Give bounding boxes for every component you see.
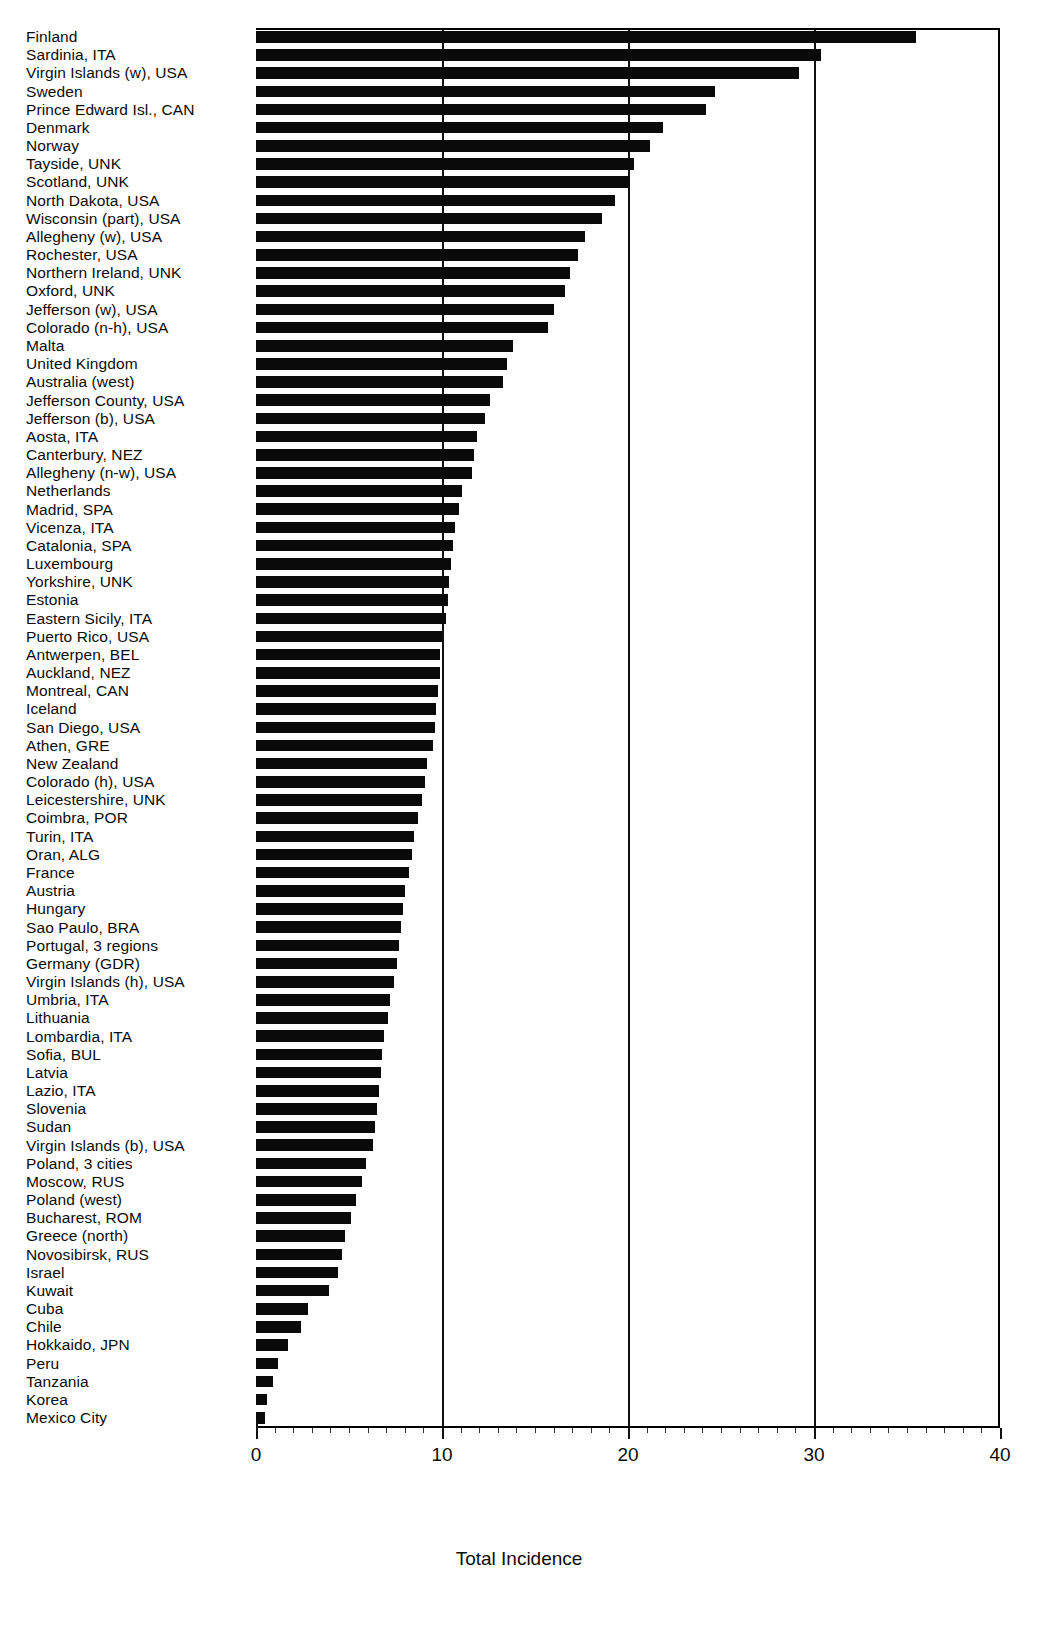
bar-row: North Dakota, USA (0, 192, 1038, 210)
bar-track (256, 1046, 1000, 1064)
bar-label: Madrid, SPA (26, 501, 113, 517)
bar-track (256, 719, 1000, 737)
bar-track (256, 1027, 1000, 1045)
bar-label: Sweden (26, 83, 83, 99)
bar-row: Sao Paulo, BRA (0, 918, 1038, 936)
bar-row: Sudan (0, 1118, 1038, 1136)
bar (256, 49, 821, 61)
bar (256, 1339, 288, 1351)
bar (256, 413, 485, 425)
bar-label: Finland (26, 29, 78, 45)
bar-label: Australia (west) (26, 374, 134, 390)
bar-row: Sweden (0, 83, 1038, 101)
bar-row: Virgin Islands (b), USA (0, 1136, 1038, 1154)
bar (256, 67, 799, 79)
bar-row: Iceland (0, 700, 1038, 718)
bar-track (256, 1064, 1000, 1082)
bar (256, 613, 446, 625)
bar-row: Hokkaido, JPN (0, 1336, 1038, 1354)
bar-row: Oran, ALG (0, 846, 1038, 864)
bar (256, 976, 394, 988)
minor-tick (479, 1428, 480, 1433)
bar-label: Jefferson (w), USA (26, 301, 158, 317)
bar-label: Estonia (26, 592, 78, 608)
minor-tick (665, 1428, 666, 1433)
bar-row: Lombardia, ITA (0, 1027, 1038, 1045)
bar-track (256, 1100, 1000, 1118)
bar-label: Leicestershire, UNK (26, 792, 166, 808)
bar-row: Leicestershire, UNK (0, 791, 1038, 809)
bar (256, 1267, 338, 1279)
bar-track (256, 918, 1000, 936)
bar-label: Virgin Islands (b), USA (26, 1137, 185, 1153)
minor-tick (851, 1428, 852, 1433)
bar-row: Montreal, CAN (0, 682, 1038, 700)
bar-row: United Kingdom (0, 355, 1038, 373)
bar-row: Australia (west) (0, 373, 1038, 391)
bar-row: Northern Ireland, UNK (0, 264, 1038, 282)
x-tick-label-0: 0 (251, 1444, 262, 1466)
bar (256, 740, 433, 752)
bar (256, 304, 554, 316)
bar-track (256, 337, 1000, 355)
bar-label: Sao Paulo, BRA (26, 919, 139, 935)
bar-row: Poland, 3 cities (0, 1155, 1038, 1173)
bar-row: Umbria, ITA (0, 991, 1038, 1009)
bar (256, 394, 490, 406)
minor-tick (702, 1428, 703, 1433)
bar (256, 558, 451, 570)
minor-tick (721, 1428, 722, 1433)
bar-row: Colorado (h), USA (0, 773, 1038, 791)
bar-track (256, 391, 1000, 409)
x-tick-label-10: 10 (431, 1444, 452, 1466)
bar-track (256, 464, 1000, 482)
bar (256, 104, 706, 116)
x-tick-30 (814, 1428, 816, 1439)
bar-track (256, 1391, 1000, 1409)
bar-label: Novosibirsk, RUS (26, 1246, 149, 1262)
bar (256, 903, 403, 915)
bar-track (256, 446, 1000, 464)
bar (256, 776, 425, 788)
minor-tick (684, 1428, 685, 1433)
bar-track (256, 482, 1000, 500)
bar (256, 140, 650, 152)
bar-track (256, 1136, 1000, 1154)
bar-track (256, 755, 1000, 773)
minor-tick (535, 1428, 536, 1433)
bar (256, 467, 472, 479)
bar-label: Montreal, CAN (26, 683, 129, 699)
bar-row: Lazio, ITA (0, 1082, 1038, 1100)
x-tick-label-20: 20 (617, 1444, 638, 1466)
bar (256, 358, 507, 370)
minor-tick (516, 1428, 517, 1433)
bar-track (256, 973, 1000, 991)
bar-track (256, 682, 1000, 700)
bar-label: Moscow, RUS (26, 1174, 124, 1190)
bar-row: Korea (0, 1391, 1038, 1409)
bar-label: Lombardia, ITA (26, 1028, 132, 1044)
bar-row: Athen, GRE (0, 737, 1038, 755)
bar-row: Rochester, USA (0, 246, 1038, 264)
bar (256, 1030, 384, 1042)
bar-label: Hokkaido, JPN (26, 1337, 130, 1353)
minor-tick (888, 1428, 889, 1433)
bar-label: Germany (GDR) (26, 955, 140, 971)
bar-label: Jefferson County, USA (26, 392, 184, 408)
bar (256, 1194, 356, 1206)
bar-track (256, 173, 1000, 191)
bar-track (256, 264, 1000, 282)
minor-tick (349, 1428, 350, 1433)
bar-label: North Dakota, USA (26, 192, 160, 208)
bar-row: Madrid, SPA (0, 500, 1038, 518)
minor-tick (293, 1428, 294, 1433)
minor-tick (795, 1428, 796, 1433)
bar-row: Latvia (0, 1064, 1038, 1082)
bar-row: Bucharest, ROM (0, 1209, 1038, 1227)
bar (256, 649, 440, 661)
bar (256, 213, 602, 225)
bar-track (256, 137, 1000, 155)
bar-label: Colorado (n-h), USA (26, 319, 168, 335)
bar (256, 158, 634, 170)
bar-row: Netherlands (0, 482, 1038, 500)
